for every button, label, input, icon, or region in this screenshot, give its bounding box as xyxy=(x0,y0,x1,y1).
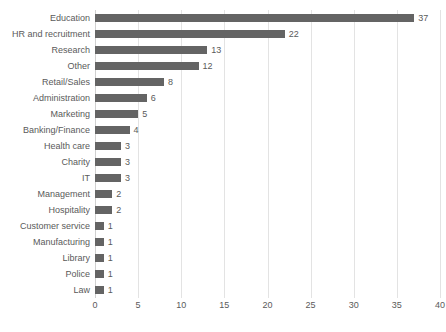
bar xyxy=(95,14,414,22)
bar-row: Health care3 xyxy=(95,138,440,154)
category-label: IT xyxy=(82,170,90,186)
x-tick-label-40: 40 xyxy=(435,300,445,310)
x-axis-tick-labels: 0510152025303540 xyxy=(95,300,440,316)
category-label: Other xyxy=(67,58,90,74)
category-label: Police xyxy=(65,266,90,282)
value-label: 22 xyxy=(289,26,299,42)
bar-chart: Education37HR and recruitment22Research1… xyxy=(0,0,446,332)
bar xyxy=(95,222,104,230)
x-tick-label-0: 0 xyxy=(92,300,97,310)
category-label: Banking/Finance xyxy=(23,122,90,138)
value-label: 1 xyxy=(108,234,113,250)
bar-row: Library1 xyxy=(95,250,440,266)
value-label: 3 xyxy=(125,154,130,170)
bar-row: Other12 xyxy=(95,58,440,74)
category-label: Management xyxy=(37,186,90,202)
bar xyxy=(95,62,199,70)
bar-rows: Education37HR and recruitment22Research1… xyxy=(95,10,440,298)
gridline-40 xyxy=(440,10,441,298)
category-label: Customer service xyxy=(20,218,90,234)
category-label: HR and recruitment xyxy=(12,26,90,42)
category-label: Hospitality xyxy=(48,202,90,218)
bar xyxy=(95,206,112,214)
bar xyxy=(95,110,138,118)
value-label: 1 xyxy=(108,266,113,282)
bar xyxy=(95,94,147,102)
category-label: Marketing xyxy=(50,106,90,122)
bar-row: Banking/Finance4 xyxy=(95,122,440,138)
bar-row: Education37 xyxy=(95,10,440,26)
value-label: 6 xyxy=(151,90,156,106)
value-label: 8 xyxy=(168,74,173,90)
value-label: 4 xyxy=(134,122,139,138)
category-label: Health care xyxy=(44,138,90,154)
bar xyxy=(95,238,104,246)
bar xyxy=(95,286,104,294)
bar xyxy=(95,30,285,38)
x-tick-label-35: 35 xyxy=(392,300,402,310)
bar xyxy=(95,126,130,134)
bar-row: HR and recruitment22 xyxy=(95,26,440,42)
bar xyxy=(95,46,207,54)
bar-row: Charity3 xyxy=(95,154,440,170)
category-label: Retail/Sales xyxy=(42,74,90,90)
bar xyxy=(95,78,164,86)
bar xyxy=(95,174,121,182)
bar-row: Law1 xyxy=(95,282,440,298)
value-label: 3 xyxy=(125,170,130,186)
bar-row: Research13 xyxy=(95,42,440,58)
value-label: 1 xyxy=(108,250,113,266)
value-label: 12 xyxy=(203,58,213,74)
category-label: Education xyxy=(50,10,90,26)
value-label: 5 xyxy=(142,106,147,122)
category-label: Charity xyxy=(61,154,90,170)
category-label: Administration xyxy=(33,90,90,106)
plot-area: Education37HR and recruitment22Research1… xyxy=(95,10,440,298)
x-tick-label-30: 30 xyxy=(349,300,359,310)
bar xyxy=(95,142,121,150)
category-label: Research xyxy=(51,42,90,58)
value-label: 2 xyxy=(116,202,121,218)
bar xyxy=(95,158,121,166)
value-label: 1 xyxy=(108,282,113,298)
bar-row: IT3 xyxy=(95,170,440,186)
bar-row: Marketing5 xyxy=(95,106,440,122)
value-label: 1 xyxy=(108,218,113,234)
category-label: Manufacturing xyxy=(33,234,90,250)
bar xyxy=(95,270,104,278)
bar xyxy=(95,254,104,262)
value-label: 2 xyxy=(116,186,121,202)
bar-row: Customer service1 xyxy=(95,218,440,234)
value-label: 3 xyxy=(125,138,130,154)
x-tick-label-10: 10 xyxy=(176,300,186,310)
bar-row: Retail/Sales8 xyxy=(95,74,440,90)
bar-row: Management2 xyxy=(95,186,440,202)
category-label: Library xyxy=(62,250,90,266)
value-label: 13 xyxy=(211,42,221,58)
bar-row: Hospitality2 xyxy=(95,202,440,218)
x-tick-label-25: 25 xyxy=(306,300,316,310)
bar-row: Administration6 xyxy=(95,90,440,106)
bar-row: Manufacturing1 xyxy=(95,234,440,250)
category-label: Law xyxy=(73,282,90,298)
bar xyxy=(95,190,112,198)
x-tick-label-20: 20 xyxy=(262,300,272,310)
x-tick-label-5: 5 xyxy=(136,300,141,310)
x-tick-label-15: 15 xyxy=(219,300,229,310)
value-label: 37 xyxy=(418,10,428,26)
bar-row: Police1 xyxy=(95,266,440,282)
